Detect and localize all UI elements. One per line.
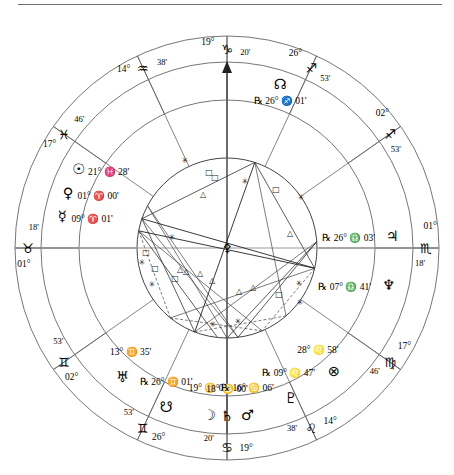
planet-neptune[interactable]: ♆℞ 07° ♎ 41'	[318, 277, 395, 293]
planet-position-uranus: 13° ♊ 35'	[110, 346, 152, 358]
cusp-minute-house-11: 38'	[157, 57, 168, 67]
cusp-sign-house-1-asc: ♉	[22, 241, 34, 256]
planet-position-north-node: ℞ 26° ♐ 01'	[254, 95, 307, 107]
aspect-line	[142, 219, 238, 338]
planet-glyph-saturn: ♄	[221, 408, 234, 424]
aspect-line	[255, 162, 315, 268]
planet-glyph-sun: ☉	[72, 161, 85, 177]
cusp-minute-house-5: 38'	[287, 423, 298, 433]
aspect-symbol-sextile: ✳	[139, 258, 146, 267]
cusp-degree-house-11: 14°	[117, 64, 131, 74]
planet-position-jupiter: ℞ 26° ♎ 03'	[322, 232, 375, 244]
planet-glyph-venus: ♀	[63, 185, 74, 201]
planet-south-node[interactable]: ☋℞ 26° ♊ 01'	[140, 376, 193, 415]
aspect-symbol-square: □	[171, 274, 179, 283]
aspect-symbol-trine: △	[197, 269, 204, 278]
center-marker-icon: ⚴	[223, 241, 232, 255]
cusp-degree-house-5: 14°	[324, 416, 338, 426]
planet-position-sun: 21° ♓ 28'	[88, 166, 130, 178]
planet-north-node[interactable]: ☊℞ 26° ♐ 01'	[254, 76, 307, 107]
cusp-minute-house-3: 53'	[124, 407, 135, 417]
planet-glyph-neptune: ♆	[382, 277, 395, 293]
cusp-minute-house-8: 53'	[391, 144, 402, 154]
aspect-symbol-trine: △	[250, 283, 257, 292]
planet-position-mercury: 09° ♈ 01'	[71, 213, 113, 225]
aspect-line	[170, 268, 314, 318]
planet-glyph-part-of-fortune: ⊗	[328, 363, 340, 379]
planet-glyph-north-node: ☊	[274, 76, 287, 92]
cusp-degree-house-6: 17°	[398, 341, 412, 351]
cusp-degree-house-10-mc: 19°	[201, 37, 215, 47]
mc-arrow-icon	[222, 61, 232, 73]
planet-position-mars: ℞ 16° ♋ 06'	[221, 382, 274, 394]
cusp-minute-house-10-mc: 20'	[240, 47, 251, 57]
aspect-symbol-square: □	[142, 248, 150, 257]
cusp-degree-house-12: 17°	[43, 139, 57, 149]
aspect-symbol-trine: △	[287, 229, 294, 238]
cusp-minute-house-2: 53'	[53, 336, 64, 346]
planet-mercury[interactable]: ☿09° ♈ 01'	[58, 208, 113, 225]
aspect-symbol-square: □	[151, 264, 159, 273]
planet-jupiter[interactable]: ♃℞ 26° ♎ 03'	[322, 228, 399, 244]
aspect-symbol-square: □	[272, 185, 280, 194]
cusp-minute-house-12: 46'	[74, 114, 85, 124]
aspect-symbol-trine: △	[236, 287, 243, 296]
planet-glyph-pluto: ♇	[284, 390, 297, 406]
cusp-sign-house-7-dsc: ♏	[420, 241, 432, 256]
aspect-symbol-sextile: ✳	[169, 233, 176, 242]
cusp-minute-house-4-ic: 20'	[204, 433, 215, 443]
cusp-degree-house-7-dsc: 01°	[423, 221, 437, 231]
planet-glyph-uranus: ♅	[116, 369, 129, 385]
cusp-degree-house-4-ic: 19°	[240, 443, 254, 453]
aspect-symbol-trine: △	[183, 267, 190, 276]
aspect-symbol-sextile: ✳	[242, 177, 249, 186]
cusp-degree-house-8: 02°	[376, 108, 390, 118]
planet-position-pluto: ℞ 09° ♌ 47'	[262, 367, 315, 379]
aspect-symbol-sextile: ✳	[182, 156, 189, 165]
planet-glyph-jupiter: ♃	[386, 228, 399, 244]
aspect-symbol-trine: △	[209, 276, 216, 285]
planet-sun[interactable]: ☉21° ♓ 28'	[72, 161, 129, 178]
planet-position-south-node: ℞ 26° ♊ 01'	[140, 376, 193, 388]
aspect-symbol-sextile: ✳	[235, 317, 242, 326]
cusp-degree-house-9: 26°	[289, 48, 303, 58]
astrology-wheel[interactable]: 01°♉18'02°♊53'26°♊53'19°♋20'14°♌38'17°♍4…	[0, 0, 454, 475]
planet-position-venus: 01° ♈ 00'	[78, 190, 120, 202]
planet-position-neptune: ℞ 07° ♎ 41'	[318, 281, 371, 293]
cusp-minute-house-1-asc: 18'	[29, 222, 40, 232]
planet-venus[interactable]: ♀01° ♈ 00'	[63, 185, 119, 202]
aspect-symbol-trine: △	[200, 190, 207, 199]
planet-glyph-south-node: ☋	[160, 399, 173, 415]
planet-glyph-mars: ♂	[241, 407, 254, 423]
aspect-line	[148, 206, 238, 338]
aspect-symbol-sextile: ✳	[149, 280, 156, 289]
planet-glyph-mercury: ☿	[58, 208, 67, 224]
cusp-minute-house-9: 53'	[320, 73, 331, 83]
aspect-symbol-sextile: ✳	[297, 298, 304, 307]
planet-glyph-moon: ☽	[203, 407, 216, 423]
aspect-symbol-sextile: ✳	[298, 193, 305, 202]
cusp-degree-house-2: 02°	[65, 372, 79, 382]
cusp-degree-house-1-asc: 01°	[17, 259, 31, 269]
natal-chart-page: 01°♉18'02°♊53'26°♊53'19°♋20'14°♌38'17°♍4…	[0, 0, 454, 475]
aspect-symbol-square: □	[211, 173, 219, 182]
aspect-symbol-square: □	[275, 290, 283, 299]
planet-position-part-of-fortune: 28° ♌ 58'	[297, 344, 339, 356]
cusp-degree-house-3: 26°	[152, 432, 166, 442]
aspect-symbol-sextile: ✳	[210, 320, 217, 329]
aspect-symbol-sextile: ✳	[296, 279, 303, 288]
